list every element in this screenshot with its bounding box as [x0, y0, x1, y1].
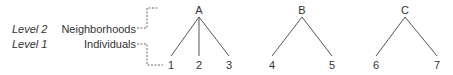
individual-node-7: 7 [434, 59, 440, 71]
individual-node-3: 3 [226, 59, 232, 71]
individual-node-6: 6 [373, 59, 379, 71]
individual-node-1: 1 [168, 59, 174, 71]
tree-group: A123B45C67 [168, 4, 440, 71]
group-node-c: C [401, 4, 409, 16]
edge-b-5 [302, 17, 332, 56]
edge-c-6 [376, 17, 405, 56]
group-node-a: A [195, 4, 203, 16]
individual-node-4: 4 [269, 59, 275, 71]
edge-a-3 [199, 17, 229, 56]
level-2-label: Level 2 [12, 23, 47, 35]
individual-node-2: 2 [196, 59, 202, 71]
individual-node-5: 5 [329, 59, 335, 71]
group-node-b: B [298, 4, 305, 16]
level-1-label: Level 1 [12, 38, 47, 50]
individuals-label: Individuals [84, 38, 136, 50]
level-2-connector [137, 8, 158, 28]
edge-b-4 [272, 17, 302, 56]
level-1-connector [137, 44, 163, 65]
neighborhoods-label: Neighborhoods [61, 23, 136, 35]
edge-a-1 [171, 17, 199, 56]
edge-c-7 [405, 17, 437, 56]
multilevel-diagram: Level 2 Neighborhoods Level 1 Individual… [0, 0, 453, 75]
